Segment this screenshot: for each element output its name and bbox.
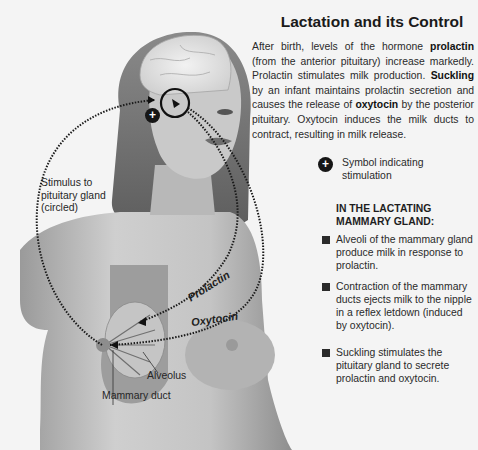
bullet-square-icon xyxy=(322,283,330,291)
stimulation-plus-icon: + xyxy=(145,108,160,123)
mammary-gland xyxy=(105,302,165,378)
stimulus-label: Stimulus topituitary gland(circled) xyxy=(41,177,106,215)
bullet-square-icon xyxy=(322,349,330,357)
page-title: Lactation and its Control xyxy=(272,13,472,31)
legend-plus-icon: + xyxy=(318,157,333,172)
alveolus-label: Alveolus xyxy=(147,370,186,383)
section-heading: IN THE LACTATINGMAMMARY GLAND: xyxy=(336,202,434,228)
mammary-duct-label: Mammary duct xyxy=(102,390,171,403)
bullet-square-icon xyxy=(322,236,330,244)
intro-paragraph: After birth, levels of the hormone prola… xyxy=(252,40,474,142)
legend-text: Symbol indicating stimulation xyxy=(342,156,462,182)
